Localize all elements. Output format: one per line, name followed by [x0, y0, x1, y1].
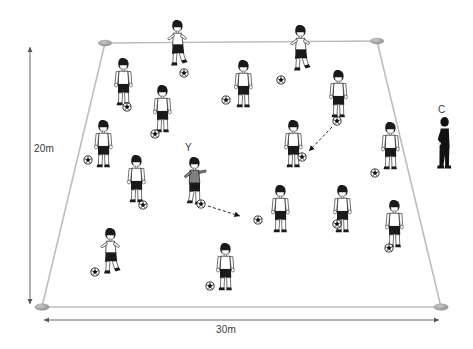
- soccer-ball: [333, 220, 341, 228]
- soccer-ball: [277, 76, 285, 84]
- soccer-ball: [197, 200, 205, 208]
- soccer-ball: [298, 153, 306, 161]
- width-dimension-label: 30m: [216, 324, 236, 335]
- soccer-ball: [91, 268, 99, 276]
- cone-bottom-left: [35, 304, 50, 311]
- player-figure: [291, 25, 311, 70]
- player-figure: [386, 200, 404, 247]
- soccer-ball: [151, 130, 159, 138]
- soccer-ball: [139, 201, 147, 209]
- pass-arrows: [208, 127, 332, 216]
- cone-top-right: [370, 38, 384, 45]
- soccer-ball: [333, 117, 341, 125]
- player-figure: [154, 85, 172, 132]
- player-figure: [128, 155, 146, 202]
- soccer-ball: [180, 69, 188, 77]
- soccer-ball: [123, 103, 131, 111]
- player-figure: [382, 122, 400, 169]
- player-figure: [330, 70, 348, 117]
- player-label-y: Y: [185, 142, 192, 153]
- training-grid-svg: [0, 0, 473, 349]
- soccer-ball: [84, 156, 92, 164]
- player-figure: [184, 157, 206, 204]
- player-figure: [95, 120, 113, 167]
- pass-arrow-right: [309, 127, 332, 151]
- player-figure: [272, 185, 290, 232]
- player-figure: [217, 243, 235, 290]
- height-dimension-label: 20m: [34, 143, 54, 154]
- soccer-ball: [371, 169, 379, 177]
- coach-figure: [437, 117, 451, 168]
- soccer-ball: [254, 216, 262, 224]
- players-layer: [84, 20, 403, 290]
- soccer-ball: [206, 282, 214, 290]
- coach-label-c: C: [438, 104, 445, 115]
- soccer-ball: [222, 96, 230, 104]
- cone-top-left: [98, 40, 112, 47]
- player-figure: [101, 228, 121, 273]
- cone-bottom-right: [434, 304, 449, 311]
- player-figure: [115, 58, 133, 105]
- player-figure: [235, 60, 253, 107]
- diagram-canvas: 20m 30m Y C: [0, 0, 473, 349]
- coach-figure-group: [437, 117, 451, 168]
- pass-arrow-Y: [208, 206, 240, 216]
- soccer-ball: [385, 244, 393, 252]
